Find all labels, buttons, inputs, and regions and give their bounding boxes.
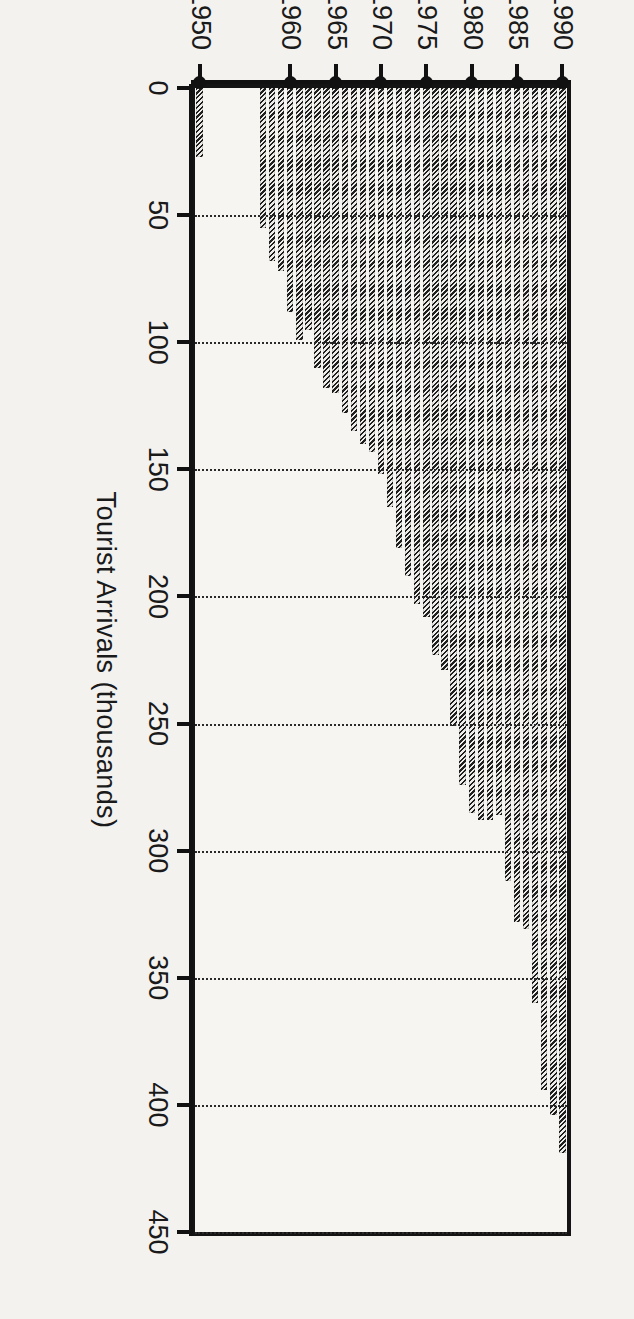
year-tick-dot-1965 — [329, 76, 342, 89]
bar-1978 — [450, 88, 456, 726]
year-tick-dot-1980 — [465, 76, 478, 89]
value-tick-150 — [177, 467, 193, 471]
value-tick-100 — [177, 340, 193, 344]
year-tick-label-1980: 1980 — [456, 0, 487, 50]
year-tick-dot-1985 — [511, 76, 524, 89]
year-tick-label-1970: 1970 — [366, 0, 397, 50]
value-tick-200 — [177, 594, 193, 598]
bar-1971 — [387, 88, 393, 507]
plot-area — [191, 84, 571, 1236]
gridline-450 — [195, 1232, 567, 1234]
year-tick-dot-1990 — [556, 76, 569, 89]
value-axis-line — [189, 84, 193, 1236]
value-tick-label-100: 100 — [142, 319, 173, 364]
bar-1963 — [314, 88, 320, 368]
bar-1988 — [541, 88, 547, 1090]
bar-1950 — [196, 88, 202, 157]
bar-1959 — [278, 88, 284, 271]
year-tick-dot-1950 — [193, 76, 206, 89]
year-tick-label-1950: 1950 — [184, 0, 215, 50]
bar-1981 — [478, 88, 484, 820]
bar-1957 — [260, 88, 266, 228]
bar-1968 — [360, 88, 366, 444]
bar-chart-figure: 19501960196519701975198019851990 0501001… — [37, 40, 597, 1280]
bar-1970 — [378, 88, 384, 474]
value-tick-label-0: 0 — [142, 80, 173, 95]
bar-1962 — [305, 88, 311, 330]
rotated-figure-container: 19501960196519701975198019851990 0501001… — [37, 40, 597, 1280]
bar-1958 — [269, 88, 275, 261]
bar-1980 — [469, 88, 475, 813]
value-tick-label-200: 200 — [142, 573, 173, 618]
bar-1967 — [351, 88, 357, 431]
gridline-400 — [195, 1104, 567, 1106]
bar-1985 — [514, 88, 520, 922]
bar-1977 — [441, 88, 447, 670]
year-tick-label-1960: 1960 — [275, 0, 306, 50]
bar-1973 — [405, 88, 411, 576]
bar-1976 — [432, 88, 438, 655]
gridline-350 — [195, 977, 567, 979]
year-tick-dot-1960 — [284, 76, 297, 89]
bar-1960 — [287, 88, 293, 312]
year-tick-label-1975: 1975 — [411, 0, 442, 50]
value-tick-label-450: 450 — [142, 1209, 173, 1254]
value-tick-0 — [177, 86, 193, 90]
bar-1989 — [550, 88, 556, 1115]
bar-1979 — [460, 88, 466, 785]
value-tick-label-400: 400 — [142, 1082, 173, 1127]
gridline-200 — [195, 596, 567, 598]
bar-1974 — [414, 88, 420, 604]
value-tick-label-150: 150 — [142, 446, 173, 491]
gridline-300 — [195, 850, 567, 852]
bar-1983 — [496, 88, 502, 815]
value-tick-300 — [177, 848, 193, 852]
value-tick-450 — [177, 1230, 193, 1234]
bar-1961 — [296, 88, 302, 340]
year-tick-dot-1970 — [375, 76, 388, 89]
bar-1987 — [532, 88, 538, 1003]
bar-1966 — [342, 88, 348, 413]
value-tick-50 — [177, 213, 193, 217]
gridline-100 — [195, 342, 567, 344]
chart-page: 19501960196519701975198019851990 0501001… — [0, 0, 634, 1319]
bar-1972 — [396, 88, 402, 548]
gridline-250 — [195, 723, 567, 725]
bar-1984 — [505, 88, 511, 881]
bar-1986 — [523, 88, 529, 929]
value-axis-title: Tourist Arrivals (thousands) — [90, 40, 121, 1280]
bar-1975 — [423, 88, 429, 617]
value-tick-label-350: 350 — [142, 955, 173, 1000]
value-tick-250 — [177, 721, 193, 725]
gridline-50 — [195, 215, 567, 217]
year-tick-label-1965: 1965 — [320, 0, 351, 50]
bar-1965 — [332, 88, 338, 393]
year-tick-dot-1975 — [420, 76, 433, 89]
value-tick-350 — [177, 975, 193, 979]
bars-layer — [195, 88, 567, 1232]
value-tick-label-250: 250 — [142, 701, 173, 746]
bar-1990 — [559, 88, 565, 1153]
value-tick-label-50: 50 — [142, 200, 173, 230]
gridline-150 — [195, 469, 567, 471]
bar-1982 — [487, 88, 493, 820]
year-tick-label-1990: 1990 — [547, 0, 578, 50]
bar-1969 — [369, 88, 375, 452]
year-tick-label-1985: 1985 — [502, 0, 533, 50]
value-tick-400 — [177, 1102, 193, 1106]
value-tick-label-300: 300 — [142, 828, 173, 873]
